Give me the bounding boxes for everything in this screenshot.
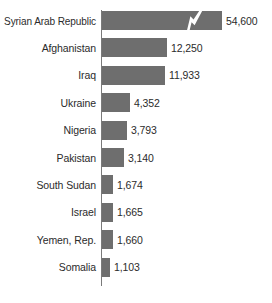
bar[interactable] <box>102 230 113 249</box>
bar-wrapper <box>102 66 165 85</box>
bar-row: Israel1,665 <box>0 203 272 222</box>
bar-wrapper <box>102 93 130 112</box>
bar-wrapper <box>102 148 124 167</box>
bar[interactable] <box>102 93 130 112</box>
value-label: 1,103 <box>114 261 140 273</box>
bar[interactable] <box>102 258 110 277</box>
bar-wrapper <box>102 258 110 277</box>
value-label: 11,933 <box>169 69 200 81</box>
bar-row: Afghanistan12,250 <box>0 38 272 57</box>
bar-row: Iraq11,933 <box>0 66 272 85</box>
bar-wrapper <box>102 11 222 30</box>
bar-wrapper <box>102 175 113 194</box>
bar[interactable] <box>102 66 165 85</box>
category-label: South Sudan <box>36 179 96 191</box>
bar[interactable] <box>102 203 113 222</box>
value-label: 1,660 <box>117 234 143 246</box>
bar[interactable] <box>102 175 113 194</box>
bar-row: South Sudan1,674 <box>0 175 272 194</box>
category-label: Afghanistan <box>42 42 96 54</box>
value-label: 1,674 <box>117 179 143 191</box>
category-label: Israel <box>71 206 96 218</box>
category-label: Somalia <box>59 261 96 273</box>
value-label: 1,665 <box>117 206 143 218</box>
value-label: 54,600 <box>226 15 258 27</box>
value-label: 12,250 <box>171 42 203 54</box>
bar-row: Syrian Arab Republic54,600 <box>0 11 272 30</box>
bar-row: Ukraine4,352 <box>0 93 272 112</box>
bar-row: Pakistan3,140 <box>0 148 272 167</box>
bar-wrapper <box>102 230 113 249</box>
bar-chart: Syrian Arab Republic54,600Afghanistan12,… <box>0 0 272 303</box>
category-label: Syrian Arab Republic <box>4 15 96 27</box>
category-label: Yemen, Rep. <box>37 234 96 246</box>
bar[interactable] <box>102 121 127 140</box>
bar-wrapper <box>102 38 167 57</box>
category-label: Pakistan <box>57 152 96 164</box>
category-label: Ukraine <box>61 97 96 109</box>
bar-wrapper <box>102 203 113 222</box>
value-label: 3,140 <box>128 152 154 164</box>
bar-row: Yemen, Rep.1,660 <box>0 230 272 249</box>
bar-row: Nigeria3,793 <box>0 121 272 140</box>
bar[interactable] <box>102 38 167 57</box>
bar-row: Somalia1,103 <box>0 258 272 277</box>
bar[interactable] <box>102 148 124 167</box>
category-label: Iraq <box>78 69 96 81</box>
category-label: Nigeria <box>63 124 96 136</box>
bar[interactable] <box>102 11 222 30</box>
value-label: 3,793 <box>131 124 157 136</box>
bar-wrapper <box>102 121 127 140</box>
value-label: 4,352 <box>134 97 160 109</box>
